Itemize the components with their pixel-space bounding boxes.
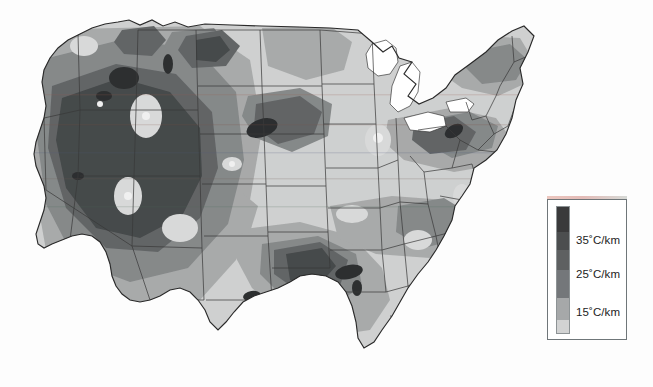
- legend-label-15: 15˚C/km: [576, 306, 620, 318]
- legend-label-35: 35˚C/km: [576, 234, 620, 246]
- hotspot-snake-river: [96, 91, 112, 101]
- map-canvas: [0, 0, 545, 370]
- legend-band-1: [557, 232, 569, 250]
- hotspot-mississippi: [352, 280, 362, 296]
- geothermal-gradient-legend: 35˚C/km 25˚C/km 15˚C/km: [547, 199, 627, 340]
- hotspot-montana: [163, 54, 173, 74]
- legend-band-2: [557, 250, 569, 270]
- gradient-bands: [0, 0, 545, 370]
- geothermal-gradient-figure: 35˚C/km 25˚C/km 15˚C/km: [0, 0, 653, 387]
- legend-color-bar: [556, 206, 570, 334]
- legend-band-4: [557, 298, 569, 321]
- legend-labels: 35˚C/km 25˚C/km 15˚C/km: [576, 200, 626, 339]
- legend-band-5: [557, 320, 569, 333]
- legend-band-0: [557, 207, 569, 232]
- united-states-map: [0, 0, 545, 370]
- legend-band-3: [557, 270, 569, 298]
- hotspot-yellowstone: [109, 67, 139, 89]
- legend-label-25: 25˚C/km: [576, 268, 620, 280]
- hotspot-gulf-coast: [307, 294, 319, 312]
